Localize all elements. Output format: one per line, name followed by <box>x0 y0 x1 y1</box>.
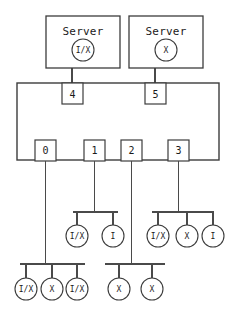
leaf-bottom-right-2[interactable]: X <box>141 278 163 300</box>
server-port-connectors <box>72 68 155 83</box>
leaf-bottom-right-1-label: X <box>117 285 122 294</box>
port-5-label: 5 <box>152 89 158 100</box>
leaf-mid-left-1-label: I/X <box>70 232 85 241</box>
leaf-mid-right-2-label: X <box>185 232 190 241</box>
server-left-mode-label: I/X <box>76 46 91 55</box>
leaf-mid-left-2[interactable]: I <box>102 225 124 247</box>
diagram-canvas: Server I/X Server X 4 5 0 1 <box>0 0 237 320</box>
leaf-mid-right-2[interactable]: X <box>176 225 198 247</box>
port-3[interactable]: 3 <box>168 140 189 161</box>
port-5[interactable]: 5 <box>145 83 166 104</box>
leaf-bottom-left-1[interactable]: I/X <box>15 278 37 300</box>
leaf-bottom-left-2-label: X <box>50 285 55 294</box>
leaf-mid-right-1-label: I/X <box>151 232 166 241</box>
leaf-mid-left-2-label: I <box>111 232 116 241</box>
port-0[interactable]: 0 <box>35 140 56 161</box>
leaf-bottom-left-3-label: I/X <box>70 285 85 294</box>
port-1-label: 1 <box>91 145 97 156</box>
port-1[interactable]: 1 <box>84 140 105 161</box>
server-right-label: Server <box>146 25 187 38</box>
port-0-label: 0 <box>42 145 48 156</box>
server-left[interactable]: Server I/X <box>46 16 120 68</box>
leaf-bottom-left-2[interactable]: X <box>41 278 63 300</box>
lock-hierarchy-diagram: Server I/X Server X 4 5 0 1 <box>0 0 237 320</box>
leaf-mid-right-1[interactable]: I/X <box>147 225 169 247</box>
leaf-bottom-right-2-label: X <box>150 285 155 294</box>
port-4-label: 4 <box>69 89 75 100</box>
leaf-mid-right-3[interactable]: I <box>202 225 224 247</box>
server-right-mode-label: X <box>164 46 169 55</box>
server-right[interactable]: Server X <box>129 16 203 68</box>
port-2-label: 2 <box>128 145 134 156</box>
leaf-bottom-left-1-label: I/X <box>19 285 34 294</box>
leaf-mid-left-1[interactable]: I/X <box>66 225 88 247</box>
port-4[interactable]: 4 <box>62 83 83 104</box>
port-3-label: 3 <box>175 145 181 156</box>
leaf-mid-right-3-label: I <box>211 232 216 241</box>
server-left-label: Server <box>63 25 104 38</box>
leaf-bottom-left-3[interactable]: I/X <box>66 278 88 300</box>
leaf-bottom-right-1[interactable]: X <box>108 278 130 300</box>
port-2[interactable]: 2 <box>121 140 142 161</box>
